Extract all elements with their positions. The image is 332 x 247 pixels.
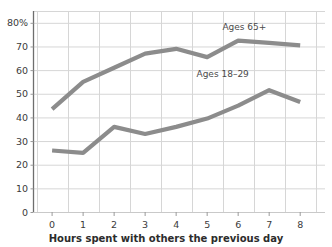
y-tick-label: 30 (16, 136, 28, 147)
x-tick-label: 3 (142, 219, 148, 230)
series-label-ages-65-plus: Ages 65+ (222, 22, 266, 32)
x-tick-label: 8 (297, 219, 303, 230)
y-tick-label: 70 (16, 41, 28, 52)
x-axis-title: Hours spent with others the previous day (49, 233, 284, 244)
x-tick-label: 7 (266, 219, 272, 230)
y-tick-label: 40 (16, 112, 28, 123)
y-tick-label: 10 (16, 183, 28, 194)
chart-background (0, 0, 332, 247)
x-tick-label: 4 (173, 219, 179, 230)
y-tick-label: 80% (7, 17, 28, 28)
x-tick-label: 6 (235, 219, 241, 230)
x-tick-label: 2 (111, 219, 117, 230)
line-chart: 80%706050403020100 012345678 Ages 65+Age… (0, 0, 332, 247)
x-tick-label: 1 (80, 219, 86, 230)
chart-container: 80%706050403020100 012345678 Ages 65+Age… (0, 0, 332, 247)
x-tick-label: 5 (204, 219, 210, 230)
x-tick-label: 0 (49, 219, 55, 230)
y-tick-label: 0 (22, 207, 28, 218)
y-tick-label: 20 (16, 159, 28, 170)
y-tick-label: 50 (16, 88, 28, 99)
series-label-ages-18-29: Ages 18–29 (196, 69, 249, 79)
y-tick-label: 60 (16, 65, 28, 76)
